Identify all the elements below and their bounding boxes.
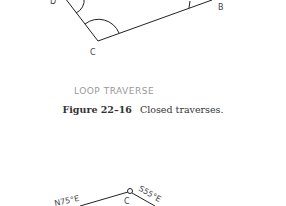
angle-arc-d [76, 0, 84, 13]
loop-traverse-diagram: D B C LOOP TRAVERSE C N75°E S55°E [0, 0, 286, 206]
traverse-line-n75e [80, 192, 128, 206]
figure-caption-text: Closed traverses. [140, 104, 224, 115]
figure-number: Figure 22–16 [62, 104, 131, 115]
figure-caption: Figure 22–16Closed traverses. [0, 104, 286, 115]
bearing-label-n75e: N75°E [54, 194, 81, 206]
bottom-point-label-c: C [124, 197, 130, 206]
angle-arc-b [189, 1, 190, 8]
point-label-b: B [218, 3, 224, 12]
point-label-c: C [90, 48, 96, 57]
station-c-marker [128, 189, 133, 194]
bearing-label-s55e: S55°E [137, 184, 163, 204]
point-label-d: D [50, 0, 56, 6]
loop-traverse-label: LOOP TRAVERSE [74, 86, 154, 96]
traverse-line-dc [65, 0, 98, 41]
traverse-line-cb [98, 0, 212, 41]
